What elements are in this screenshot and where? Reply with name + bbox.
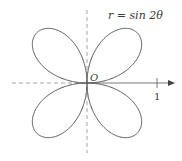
polar-rose-diagram: r = sin 2θ O 1 xyxy=(0,0,182,161)
axis-arrow-icon xyxy=(168,80,175,86)
tick-label-1: 1 xyxy=(154,91,160,102)
equation-label: r = sin 2θ xyxy=(108,9,163,22)
origin-label: O xyxy=(90,72,98,83)
